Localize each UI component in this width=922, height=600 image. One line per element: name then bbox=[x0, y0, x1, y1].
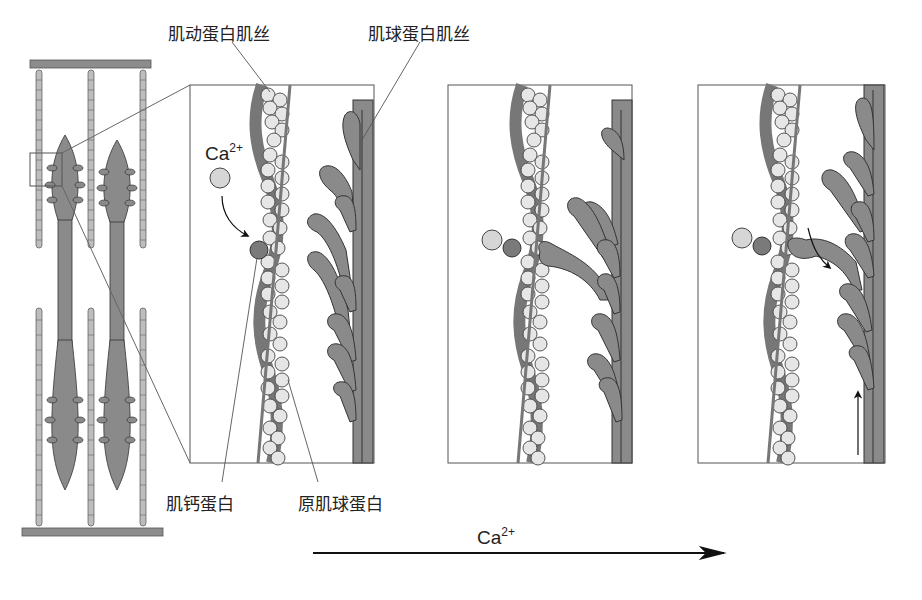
calcium-ion bbox=[210, 168, 230, 188]
z-line-bottom bbox=[22, 528, 163, 536]
label-tropomyosin: 原肌球蛋白 bbox=[298, 490, 383, 515]
muscle-contraction-diagram bbox=[0, 0, 922, 600]
sarcomere-overview bbox=[22, 60, 190, 536]
panel-resting bbox=[190, 85, 374, 465]
label-actin-filament: 肌动蛋白肌丝 bbox=[168, 20, 270, 45]
z-line-top bbox=[30, 60, 151, 68]
calcium-ion bbox=[732, 228, 752, 248]
zoom-connector-top bbox=[62, 85, 190, 153]
panel-power-stroke bbox=[698, 85, 885, 465]
label-troponin: 肌钙蛋白 bbox=[166, 490, 234, 515]
troponin bbox=[250, 241, 268, 259]
troponin bbox=[503, 239, 521, 257]
calcium-ion bbox=[482, 230, 502, 250]
label-calcium-ion: Ca2+ bbox=[205, 143, 243, 165]
label-myosin-filament: 肌球蛋白肌丝 bbox=[368, 20, 470, 45]
troponin bbox=[753, 237, 771, 255]
panel-calcium-bound bbox=[448, 85, 632, 465]
label-calcium-arrow: Ca2+ bbox=[477, 527, 515, 549]
